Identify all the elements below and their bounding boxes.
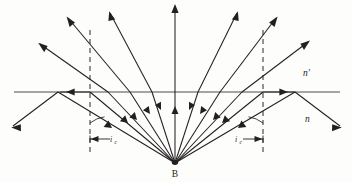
source-point-label: B bbox=[172, 169, 178, 179]
incident-ray-r2 bbox=[175, 92, 220, 163]
arrowhead-refracted-r3 bbox=[300, 41, 310, 50]
refracted-ray-r1 bbox=[198, 13, 237, 92]
refracted-rays-group bbox=[38, 4, 310, 92]
critical-angle-right-marker: i c bbox=[235, 117, 263, 145]
refracted-ray-l1 bbox=[110, 13, 152, 92]
reflected-ray-left bbox=[13, 92, 58, 126]
medium-labels-group: n′ n bbox=[303, 68, 311, 124]
ray-diagram-svg: i c i c B n′ n bbox=[0, 0, 352, 182]
incident-ray-r3 bbox=[175, 92, 242, 163]
incident-ray-l3 bbox=[108, 92, 175, 163]
arrowhead-refracted-center bbox=[171, 4, 178, 13]
arrowhead-reflected-right bbox=[332, 124, 342, 131]
source-point-group: B bbox=[172, 160, 178, 179]
arrowhead-refracted-r1 bbox=[232, 11, 239, 21]
optics-figure: i c i c B n′ n bbox=[0, 0, 352, 182]
medium-upper-label: n′ bbox=[303, 68, 311, 78]
arrowhead-angle-left bbox=[91, 136, 99, 142]
arrowhead-incident-center bbox=[172, 106, 179, 114]
medium-lower-label: n bbox=[305, 114, 310, 124]
source-point-dot bbox=[172, 160, 178, 165]
incident-ray-l1 bbox=[152, 92, 175, 163]
incident-ray-r1 bbox=[175, 92, 198, 163]
arrowhead-grazing-left bbox=[66, 89, 75, 96]
angle-arc-left bbox=[90, 117, 105, 123]
arrowhead-refracted-l3 bbox=[38, 43, 47, 53]
arrowhead-incident-r2 bbox=[200, 106, 207, 114]
incident-rays-group bbox=[58, 92, 295, 163]
arrowhead-refracted-l1 bbox=[108, 11, 115, 21]
arrowhead-incident-l2 bbox=[143, 106, 150, 114]
arrowhead-grazing-right bbox=[279, 89, 288, 96]
incident-ray-critical-right bbox=[175, 92, 263, 163]
arrowhead-angle-right bbox=[255, 136, 263, 142]
reflected-ray-right bbox=[295, 92, 340, 126]
refracted-ray-r2 bbox=[220, 18, 276, 92]
arrowhead-incident-critical-left bbox=[120, 115, 128, 123]
refracted-ray-l3 bbox=[40, 44, 108, 92]
arrowhead-reflected-left bbox=[11, 124, 21, 131]
critical-angle-left-subscript: c bbox=[115, 139, 118, 145]
critical-angle-right-label: i bbox=[235, 135, 237, 144]
critical-angle-left-label: i bbox=[110, 135, 112, 144]
incident-ray-l2 bbox=[130, 92, 175, 163]
incident-ray-tir-right bbox=[175, 92, 295, 163]
critical-angle-right-subscript: c bbox=[240, 139, 243, 145]
incident-ray-tir-left bbox=[58, 92, 175, 163]
critical-angle-left-marker: i c bbox=[90, 117, 118, 145]
incident-ray-critical-left bbox=[90, 92, 175, 163]
refracted-ray-l2 bbox=[68, 18, 130, 92]
